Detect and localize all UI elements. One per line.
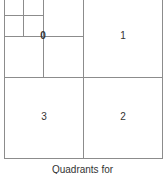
quadrant-label-3: 3 bbox=[41, 112, 47, 122]
split-horizontal-l1 bbox=[4, 77, 163, 78]
split-vertical-l1 bbox=[83, 0, 84, 158]
frame-right bbox=[162, 0, 163, 158]
frame-bottom bbox=[4, 158, 163, 159]
frame-left bbox=[4, 0, 5, 158]
quadrant-label-0: 0 bbox=[40, 31, 46, 41]
quadrant-label-1: 1 bbox=[120, 31, 126, 41]
diagram-caption: Quadrants for bbox=[0, 164, 165, 174]
split-horizontal-l3 bbox=[4, 15, 43, 16]
quadrant-label-2: 2 bbox=[120, 112, 126, 122]
split-vertical-l3 bbox=[23, 0, 24, 36]
